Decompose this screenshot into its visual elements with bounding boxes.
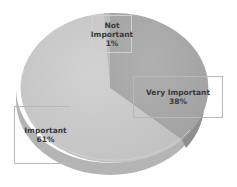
label-text: Important	[91, 30, 133, 39]
label-text: Not	[104, 21, 119, 30]
label-value: 61%	[24, 135, 66, 144]
label-text: Very Important	[146, 88, 210, 97]
data-label-very-important: Very Important 38%	[133, 76, 223, 118]
data-label-not-important: Not Important 1%	[92, 15, 132, 53]
label-value: 38%	[169, 97, 187, 106]
label-value: 1%	[106, 39, 119, 48]
label-text: Important	[24, 126, 66, 135]
label-inner: Important 61%	[24, 126, 66, 144]
data-label-important: Important 61%	[14, 106, 70, 164]
